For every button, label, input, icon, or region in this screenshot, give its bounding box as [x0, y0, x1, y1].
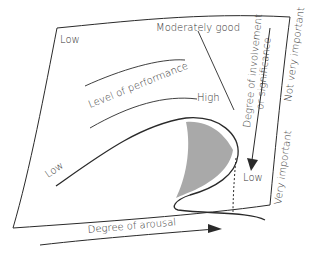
fold-shaded-region [176, 122, 233, 198]
label-level-of-performance: Level of performance [87, 60, 190, 110]
label-top-left-low: Low [60, 34, 80, 45]
label-very-important: Very important [272, 130, 293, 206]
label-bottom-low: Low [243, 172, 263, 183]
label-moderately-good: Moderately good [156, 22, 240, 33]
label-curve-low: Low [43, 159, 65, 179]
cusp-diagram: Low Moderately good Level of performance… [0, 0, 315, 257]
arousal-arrowhead [208, 224, 222, 233]
involvement-arrowhead [247, 158, 258, 171]
cusp-curve [56, 118, 265, 220]
label-high: High [197, 92, 220, 103]
